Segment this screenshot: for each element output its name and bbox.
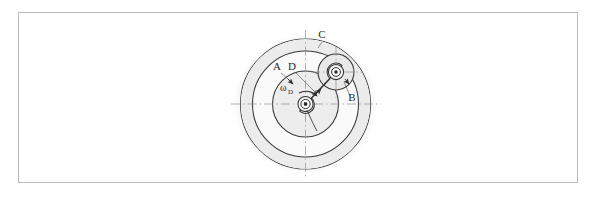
label-d: D (288, 60, 296, 72)
label-omega-subscript: D (288, 88, 293, 96)
label-c: C (318, 28, 325, 40)
label-b: B (348, 91, 355, 103)
planet-pin-joint (332, 68, 341, 77)
label-omega-base: ω (280, 82, 287, 93)
gear-diagram-canvas: C A D B ω D (0, 0, 594, 208)
figure-root: C A D B ω D (0, 0, 594, 208)
central-pivot-hub (301, 99, 310, 108)
label-a: A (273, 60, 281, 72)
